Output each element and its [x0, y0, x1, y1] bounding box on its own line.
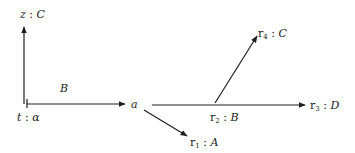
- node-r1-sep: :: [200, 136, 211, 149]
- node-r2-sep: :: [220, 111, 231, 124]
- edge-r2-to-r4: [215, 36, 257, 103]
- node-r4-sep: :: [268, 27, 279, 40]
- node-label-r3: r3 : D: [310, 99, 339, 113]
- node-r2-type: B: [229, 111, 238, 124]
- node-r3-sep: :: [320, 99, 331, 112]
- node-r1-type: A: [209, 136, 218, 149]
- node-label-r2: r2 : B: [210, 111, 239, 125]
- type-diagram: z : C t : α B a r4 : C r3 : D r2 : B r1 …: [0, 0, 355, 153]
- edge-a-to-r1: [144, 110, 187, 136]
- node-label-r1: r1 : A: [190, 136, 218, 150]
- node-label-r4: r4 : C: [258, 27, 287, 41]
- node-label-t: t : α: [17, 111, 40, 124]
- node-z-type: C: [37, 8, 46, 21]
- node-label-a: a: [131, 98, 138, 111]
- node-t-sep: :: [21, 111, 32, 124]
- node-t-type: α: [32, 111, 40, 124]
- node-z-sep: :: [26, 8, 37, 21]
- node-r3-type: D: [329, 99, 339, 112]
- node-label-z: z : C: [19, 8, 46, 21]
- edge-label-t-to-a: B: [59, 82, 68, 95]
- node-r4-type: C: [278, 27, 287, 40]
